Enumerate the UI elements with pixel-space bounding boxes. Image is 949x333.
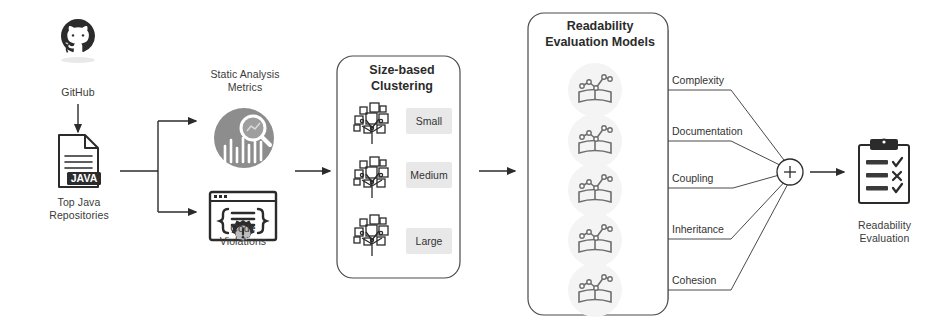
book-chart-icon [567,162,623,218]
model-output-lines [668,90,790,290]
analytics-magnifier-icon [208,102,280,174]
hierarchy-tree-icon [348,210,396,258]
hierarchy-tree-icon [348,98,396,146]
book-chart-icon [567,113,623,169]
book-chart-icon [567,212,623,268]
model-output-label-inheritance: Inheritance [672,223,724,235]
pipeline-diagram: GitHub JAVA Top Java Repositories Static… [0,0,949,333]
cluster-chip-small[interactable]: Small [406,108,452,134]
cluster-chip-large-label: Large [416,235,443,247]
model-output-label-cohesion: Cohesion [672,274,716,286]
book-chart-icon [567,62,623,118]
svg-text:JAVA: JAVA [71,172,98,184]
readability-evaluation-label: Readability Evaluation [828,219,941,245]
java-file-icon: JAVA [54,132,104,190]
top-java-repositories-label: Top Java Repositories [18,196,140,222]
cluster-chip-medium-label: Medium [410,169,447,181]
clustering-panel-title: Size-based Clustering [352,62,452,95]
cluster-chip-medium[interactable]: Medium [406,162,452,188]
connector-layer [0,0,949,333]
cluster-chip-large[interactable]: Large [406,228,452,254]
model-output-label-documentation: Documentation [672,125,743,137]
model-output-label-coupling: Coupling [672,172,713,184]
clipboard-checklist-icon [853,137,915,209]
models-panel-title: Readability Evaluation Models [538,18,662,51]
cluster-chip-small-label: Small [416,115,442,127]
static-analysis-metrics-label: Static Analysis Metrics [180,68,310,94]
code-violations-label: Code Violations [183,222,303,248]
github-octocat-icon [52,14,104,66]
hierarchy-tree-icon [348,152,396,200]
model-output-label-complexity: Complexity [672,74,724,86]
book-chart-icon [567,262,623,318]
github-label: GitHub [28,86,128,99]
